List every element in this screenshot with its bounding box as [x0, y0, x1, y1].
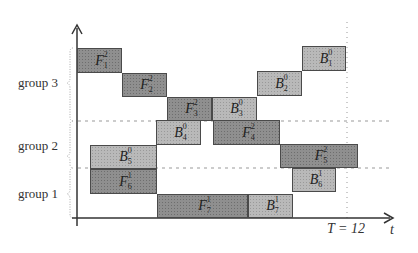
- pipeline-schedule-diagram: F21F22F23B03B02B01B04F24B05F16F25B16F17B…: [0, 0, 418, 253]
- backward-block-1-0: B01: [302, 46, 346, 71]
- forward-block-7-1: F17: [157, 194, 248, 218]
- backward-block-7-1: B17: [248, 194, 293, 218]
- x-axis-label: t: [390, 222, 394, 238]
- block-label-superscript: 0: [183, 122, 187, 131]
- block-label-subscript: 7: [207, 206, 211, 215]
- block-label: B16: [310, 172, 319, 188]
- backward-block-2-0: B02: [257, 71, 302, 96]
- brace-group-2: [67, 121, 73, 168]
- block-label-subscript: 5: [128, 157, 132, 166]
- block-label-subscript: 7: [275, 206, 279, 215]
- block-label-subscript: 4: [183, 133, 187, 142]
- block-label-superscript: 2: [323, 145, 327, 154]
- block-label: B05: [119, 149, 128, 165]
- block-label-superscript: 2: [251, 122, 255, 131]
- block-label-subscript: 4: [251, 133, 255, 142]
- forward-block-6-1: F16: [90, 169, 157, 194]
- group-label-1: group 1: [18, 186, 58, 202]
- block-label-subscript: 3: [194, 109, 198, 118]
- block-label-superscript: 2: [149, 74, 153, 83]
- block-label: F22: [140, 77, 149, 93]
- block-label: B03: [230, 101, 239, 117]
- block-label: B04: [174, 125, 183, 141]
- group-label-2: group 2: [18, 138, 58, 154]
- block-label: F21: [95, 53, 104, 69]
- block-label-subscript: 3: [239, 109, 243, 118]
- block-label: B01: [320, 51, 329, 67]
- group-braces: [67, 48, 73, 218]
- block-label-subscript: 2: [284, 84, 288, 93]
- backward-block-4-0: B04: [156, 120, 201, 145]
- block-label-subscript: 6: [318, 180, 322, 189]
- block-label-superscript: 1: [207, 195, 211, 204]
- block-label-subscript: 1: [328, 59, 332, 68]
- block-label-subscript: 6: [128, 182, 132, 191]
- backward-block-5-0: B05: [90, 145, 157, 169]
- block-label: F23: [185, 101, 194, 117]
- forward-block-1-2: F21: [77, 48, 122, 73]
- block-label: F25: [315, 148, 324, 164]
- block-label-superscript: 2: [194, 98, 198, 107]
- block-label-superscript: 1: [128, 171, 132, 180]
- block-label-subscript: 1: [104, 61, 108, 70]
- block-label: F17: [198, 198, 207, 214]
- block-label-subscript: 5: [323, 156, 327, 165]
- block-label-subscript: 2: [149, 85, 153, 94]
- backward-block-3-0: B03: [212, 97, 257, 121]
- end-time-label: T = 12: [327, 221, 365, 237]
- forward-block-5-2: F25: [280, 144, 358, 168]
- group-label-3: group 3: [18, 75, 58, 91]
- block-label-superscript: 0: [328, 48, 332, 57]
- block-label: B02: [275, 76, 284, 92]
- brace-group-3: [67, 48, 73, 121]
- block-label-superscript: 0: [284, 73, 288, 82]
- block-label-superscript: 0: [128, 146, 132, 155]
- forward-block-2-2: F22: [122, 73, 167, 97]
- forward-block-4-2: F24: [213, 120, 280, 145]
- block-label-superscript: 1: [275, 195, 279, 204]
- block-label: F24: [242, 125, 251, 141]
- block-label: F16: [119, 174, 128, 190]
- block-label: B17: [266, 198, 275, 214]
- backward-block-6-1: B16: [292, 168, 336, 192]
- forward-block-3-2: F23: [167, 97, 212, 121]
- block-label-superscript: 1: [318, 169, 322, 178]
- block-label-superscript: 2: [104, 50, 108, 59]
- brace-group-1: [67, 168, 73, 218]
- block-label-superscript: 0: [239, 98, 243, 107]
